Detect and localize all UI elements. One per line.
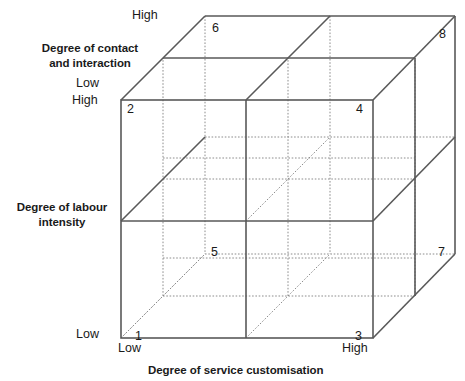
contact-axis-title: Degree of contact and interaction	[20, 41, 160, 70]
vertex-label-2: 2	[127, 102, 134, 116]
labour-axis-low-tick: Low	[76, 327, 99, 341]
vertex-label-7: 7	[438, 245, 445, 259]
contact-axis-high-tick: High	[132, 8, 158, 22]
contact-axis-low-tick: Low	[76, 76, 99, 90]
vertex-label-5: 5	[211, 245, 218, 259]
vertex-label-8: 8	[439, 27, 446, 41]
customisation-axis-title: Degree of service customisation	[148, 363, 378, 378]
labour-axis-high-tick: High	[72, 93, 98, 107]
labour-axis-title-line1: Degree of labour	[6, 200, 118, 215]
vertex-label-3: 3	[355, 329, 362, 343]
cube-hidden-edges-group	[121, 16, 455, 338]
vertex-label-4: 4	[356, 102, 363, 116]
figure-canvas: Degree of contact and interaction Degree…	[0, 0, 465, 381]
labour-axis-title-line2: intensity	[6, 215, 118, 230]
labour-axis-title: Degree of labour intensity	[6, 200, 118, 229]
contact-axis-title-line1: Degree of contact	[20, 41, 160, 56]
front-face-outline	[121, 100, 373, 338]
contact-axis-title-line2: and interaction	[20, 56, 160, 71]
customisation-axis-high-tick: High	[342, 341, 368, 355]
customisation-axis-low-tick: Low	[118, 341, 141, 355]
vertex-label-1: 1	[135, 329, 142, 343]
vertex-label-6: 6	[212, 21, 219, 35]
